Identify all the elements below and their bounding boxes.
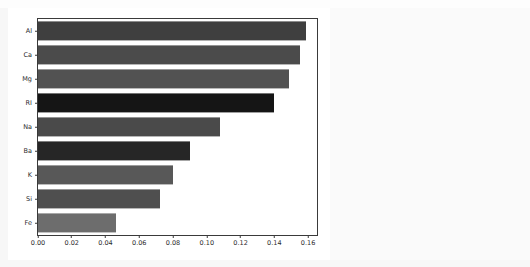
matplotlib-figure: AlCaMgRINaBaKSiFe0.000.020.040.060.080.1…	[8, 8, 330, 260]
y-tick-label: RI	[26, 100, 35, 107]
x-tick-mark	[173, 235, 174, 238]
y-tick-mark	[35, 31, 38, 32]
x-tick-0-10: 0.10	[200, 235, 214, 247]
y-tick-fe: Fe	[25, 220, 38, 227]
y-tick-na: Na	[23, 124, 38, 131]
y-tick-ba: Ba	[24, 148, 38, 155]
y-tick-label: K	[28, 172, 35, 179]
page-bottom-margin	[0, 260, 530, 267]
y-tick-label: Fe	[25, 220, 35, 227]
x-tick-0-12: 0.12	[233, 235, 247, 247]
y-tick-mark	[35, 79, 38, 80]
y-tick-label: Ba	[24, 148, 35, 155]
x-tick-label: 0.14	[267, 240, 281, 247]
x-tick-label: 0.12	[233, 240, 247, 247]
x-tick-label: 0.16	[301, 240, 315, 247]
x-tick-0-04: 0.04	[98, 235, 112, 247]
x-tick-mark	[206, 235, 207, 238]
y-tick-label: Si	[26, 196, 35, 203]
x-tick-mark	[105, 235, 106, 238]
bar-al	[38, 21, 306, 40]
y-tick-mark	[35, 223, 38, 224]
top-cutoff-text-strip	[0, 0, 530, 8]
y-tick-label: Na	[23, 124, 35, 131]
x-tick-0-02: 0.02	[65, 235, 79, 247]
x-tick-label: 0.00	[31, 240, 45, 247]
y-tick-al: Al	[26, 28, 38, 35]
y-tick-mark	[35, 175, 38, 176]
y-tick-ca: Ca	[23, 52, 38, 59]
y-tick-label: Al	[26, 28, 35, 35]
x-tick-0-06: 0.06	[132, 235, 146, 247]
bar-k	[38, 165, 173, 184]
screenshot-root: AlCaMgRINaBaKSiFe0.000.020.040.060.080.1…	[0, 0, 530, 267]
x-tick-0-14: 0.14	[267, 235, 281, 247]
y-tick-ri: RI	[26, 100, 38, 107]
x-tick-label: 0.08	[166, 240, 180, 247]
x-tick-0-00: 0.00	[31, 235, 45, 247]
bar-mg	[38, 69, 289, 88]
x-tick-label: 0.10	[200, 240, 214, 247]
y-tick-label: Ca	[23, 52, 35, 59]
y-tick-mark	[35, 103, 38, 104]
bar-ri	[38, 93, 274, 112]
x-tick-0-08: 0.08	[166, 235, 180, 247]
y-tick-mark	[35, 55, 38, 56]
page-right-blank-area	[330, 0, 530, 267]
x-tick-mark	[139, 235, 140, 238]
x-tick-mark	[274, 235, 275, 238]
x-tick-label: 0.02	[65, 240, 79, 247]
y-tick-mark	[35, 151, 38, 152]
x-tick-label: 0.06	[132, 240, 146, 247]
bar-ba	[38, 141, 190, 160]
x-tick-0-16: 0.16	[301, 235, 315, 247]
y-tick-mg: Mg	[22, 76, 38, 83]
y-tick-mark	[35, 199, 38, 200]
x-tick-label: 0.04	[98, 240, 112, 247]
x-tick-mark	[240, 235, 241, 238]
y-tick-k: K	[28, 172, 38, 179]
y-tick-label: Mg	[22, 76, 35, 83]
y-tick-mark	[35, 127, 38, 128]
bar-na	[38, 117, 220, 136]
bar-fe	[38, 213, 116, 232]
x-tick-mark	[37, 235, 38, 238]
x-tick-mark	[71, 235, 72, 238]
y-tick-si: Si	[26, 196, 38, 203]
bar-si	[38, 189, 160, 208]
bar-ca	[38, 45, 300, 64]
bar-chart-axes: AlCaMgRINaBaKSiFe0.000.020.040.060.080.1…	[37, 18, 318, 236]
x-tick-mark	[308, 235, 309, 238]
page-left-margin	[0, 0, 8, 267]
